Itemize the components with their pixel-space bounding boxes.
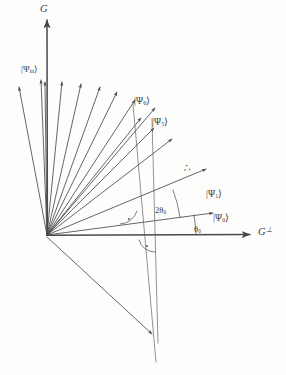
- perpendicular-symbol: ⊥: [266, 225, 272, 234]
- horizontal-axis: [47, 235, 250, 236]
- vector-psi-in: [19, 87, 47, 235]
- figure-canvas: [0, 0, 286, 375]
- construction-line-2: [152, 119, 158, 343]
- vertical-axis-label: G: [40, 4, 48, 15]
- angle-arcs: [120, 190, 196, 252]
- vector-psi-8: [47, 87, 100, 235]
- label-psi-0: |Ψ0⟩: [213, 214, 229, 224]
- label-psi-6: |Ψ6⟩: [134, 97, 150, 107]
- label-psi-in: |Ψin⟩: [21, 65, 38, 75]
- vector-psi-3: [47, 128, 154, 235]
- vector-psi-4: [47, 118, 141, 235]
- vector-psi-10: [47, 82, 62, 235]
- vector-psi-6: [47, 100, 135, 235]
- right-angle-mark-upper: [120, 211, 137, 224]
- grover-state-space-figure: G G⊥ |Ψin⟩ |Ψ6⟩ |Ψ5⟩ |Ψ1⟩ |Ψ0⟩ 2θ0 θ0 ∴: [0, 0, 286, 375]
- label-psi-1: |Ψ1⟩: [206, 190, 222, 200]
- label-angle-theta0: θ0: [194, 225, 201, 235]
- reflected-vector: [47, 237, 152, 334]
- arc-2theta0: [173, 190, 180, 217]
- construction-lines: [133, 104, 158, 362]
- label-angle-2theta0: 2θ0: [155, 206, 166, 216]
- label-psi-5: |Ψ5⟩: [152, 118, 168, 128]
- vector-psi-1: [47, 169, 206, 235]
- vector-psi-7: [47, 92, 117, 235]
- horizontal-axis-label: G⊥: [258, 226, 272, 238]
- vector-reflected: [47, 237, 152, 334]
